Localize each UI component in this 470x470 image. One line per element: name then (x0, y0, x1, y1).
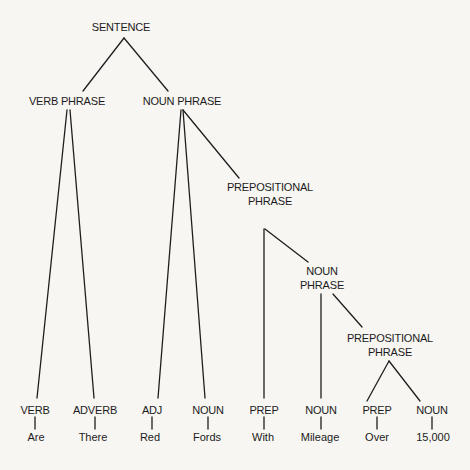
leaf-pos-verb: VERB (20, 403, 49, 417)
leaf-pos-adj: ADJ (142, 403, 162, 417)
edge-prep-phrase2-prep (367, 361, 389, 401)
edge-noun-phrase-noun (183, 110, 205, 398)
node-prepositional-phrase-2-line2: PHRASE (347, 345, 433, 359)
edge-sentence-verb-phrase (83, 38, 124, 91)
node-prepositional-phrase-1-line2: PHRASE (227, 194, 313, 208)
node-prepositional-phrase-2-line1: PREPOSITIONAL (347, 331, 433, 345)
leaf-pos-prep-over: PREP (362, 403, 391, 417)
edge-noun-phrase2-prep-phrase (333, 294, 362, 327)
node-noun-phrase: NOUN PHRASE (143, 94, 221, 108)
leaf-pos-noun-15000: NOUN (416, 403, 448, 417)
leaf-pos-prep-with: PREP (249, 403, 278, 417)
node-sentence: SENTENCE (92, 20, 150, 34)
edge-verb-phrase-adverb (70, 110, 94, 398)
leaf-word-15000: 15,000 (416, 430, 450, 444)
edge-verb-phrase-verb (37, 110, 67, 398)
tree-edges (0, 0, 470, 470)
node-verb-phrase: VERB PHRASE (29, 94, 105, 108)
leaf-word-red: Red (140, 430, 160, 444)
node-prepositional-phrase-2: PREPOSITIONAL PHRASE (347, 331, 433, 359)
node-prepositional-phrase-1: PREPOSITIONAL PHRASE (227, 180, 313, 208)
node-noun-phrase-2: NOUN PHRASE (300, 264, 344, 292)
leaf-word-over: Over (365, 430, 389, 444)
leaf-word-there: There (79, 430, 108, 444)
leaf-pos-noun-mileage: NOUN (305, 403, 337, 417)
leaf-word-mileage: Mileage (301, 430, 340, 444)
edge-noun-phrase-prep-phrase (183, 110, 239, 178)
leaf-word-are: Are (27, 430, 44, 444)
edge-sentence-noun-phrase (124, 38, 168, 91)
leaf-word-with: With (252, 430, 274, 444)
edge-prep-phrase-noun-phrase (265, 229, 308, 262)
leaf-pos-adverb: ADVERB (73, 403, 117, 417)
node-prepositional-phrase-1-line1: PREPOSITIONAL (227, 180, 313, 194)
node-noun-phrase-2-line2: PHRASE (300, 278, 344, 292)
edge-prep-phrase2-noun (389, 361, 420, 401)
node-noun-phrase-2-line1: NOUN (300, 264, 344, 278)
leaf-word-fords: Fords (193, 430, 221, 444)
edge-noun-phrase-adj (158, 110, 181, 398)
leaf-pos-noun-fords: NOUN (192, 403, 224, 417)
